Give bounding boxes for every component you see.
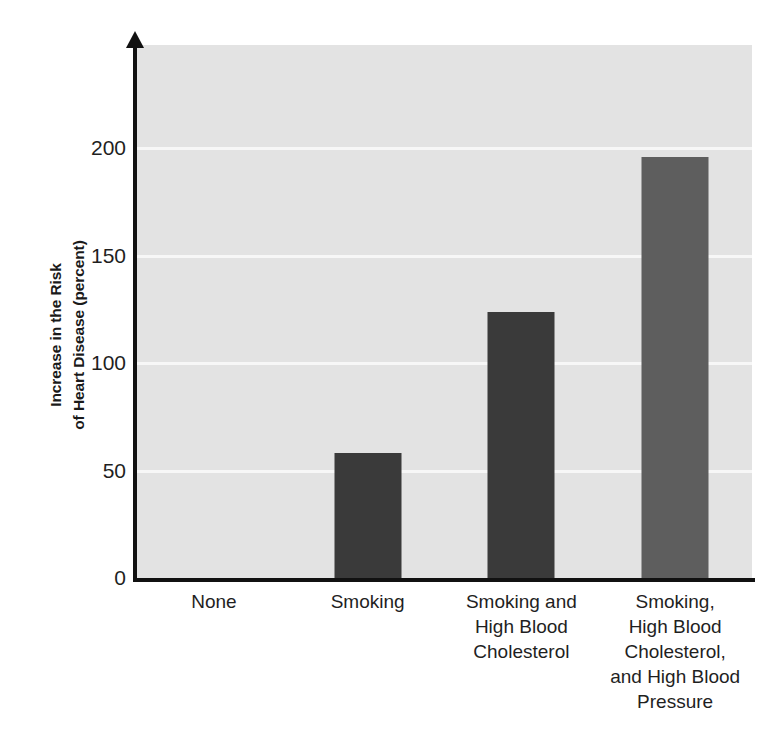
x-axis-tick-label-line: Cholesterol, bbox=[585, 639, 765, 664]
x-axis-line bbox=[133, 578, 755, 582]
y-axis-tick-label: 200 bbox=[62, 137, 126, 158]
x-axis-tick-label-line: Pressure bbox=[585, 689, 765, 714]
bar-chart-figure: Increase in the Risk of Heart Disease (p… bbox=[0, 0, 778, 730]
x-axis-tick-label: Smoking,High BloodCholesterol,and High B… bbox=[585, 589, 765, 714]
y-axis-tick-labels: 050100150200 bbox=[56, 0, 126, 730]
bar-slot[interactable] bbox=[137, 45, 291, 578]
y-axis-tick-label: 0 bbox=[62, 567, 126, 588]
bar-slot[interactable] bbox=[291, 45, 445, 578]
x-axis-tick-labels: NoneSmokingSmoking andHigh BloodCholeste… bbox=[137, 589, 752, 719]
bar[interactable] bbox=[488, 312, 555, 579]
x-axis-tick-label-line: Smoking, bbox=[585, 589, 765, 614]
x-axis-tick-label-line: and High Blood bbox=[585, 664, 765, 689]
bar[interactable] bbox=[334, 453, 401, 578]
bar-slot[interactable] bbox=[445, 45, 599, 578]
x-axis-tick-label-line: High Blood bbox=[585, 614, 765, 639]
plot-area bbox=[137, 45, 752, 578]
y-axis-tick-label: 50 bbox=[62, 460, 126, 481]
y-axis-tick-label: 100 bbox=[62, 352, 126, 373]
y-axis-line bbox=[133, 45, 137, 581]
bar-slot[interactable] bbox=[598, 45, 752, 578]
bar[interactable] bbox=[642, 157, 709, 578]
y-axis-arrow-icon bbox=[126, 31, 144, 48]
y-axis-tick-label: 150 bbox=[62, 245, 126, 266]
bar-series bbox=[137, 45, 752, 578]
